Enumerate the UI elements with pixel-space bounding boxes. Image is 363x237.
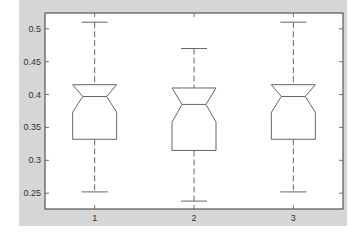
y-tick-label: 0.45 [23,57,41,67]
boxplot-chart: 0.250.30.350.40.450.5123 [0,0,363,237]
y-tick-label: 0.3 [28,155,41,165]
y-tick-label: 0.35 [23,122,41,132]
y-tick-label: 0.25 [23,188,41,198]
x-tick-label: 1 [92,213,97,223]
x-tick-label: 3 [291,213,296,223]
y-tick-label: 0.5 [28,24,41,34]
x-tick-label: 2 [191,213,196,223]
y-tick-label: 0.4 [28,90,41,100]
boxplot-figure: 0.250.30.350.40.450.5123 [0,0,363,237]
